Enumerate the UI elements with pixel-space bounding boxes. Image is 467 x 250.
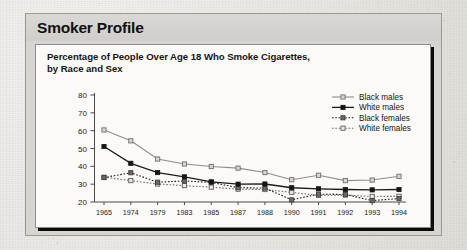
- data-point: [129, 179, 133, 183]
- data-point: [156, 180, 160, 184]
- data-point: [236, 166, 240, 170]
- legend-label: Black males: [359, 93, 403, 102]
- data-point: [156, 157, 160, 161]
- y-axis-tick-label: 30: [78, 180, 87, 189]
- data-point: [129, 171, 133, 175]
- x-axis-tick-label: 1988: [257, 208, 273, 217]
- x-axis-tick-label: 1985: [203, 208, 219, 217]
- x-axis-tick-label: 1983: [176, 208, 192, 217]
- legend-label: Black females: [359, 114, 410, 123]
- x-axis-tick-label: 1987: [230, 208, 246, 217]
- x-axis-tick-label: 1965: [96, 208, 112, 217]
- data-point: [397, 197, 401, 201]
- x-axis-tick-label: 1991: [311, 208, 327, 217]
- data-point: [129, 161, 133, 165]
- y-axis-tick-label: 50: [78, 145, 87, 154]
- legend-item-black-females: Black females: [332, 114, 410, 123]
- x-axis-tick-label: 1990: [284, 208, 300, 217]
- x-axis-tick-label: 1994: [391, 208, 407, 217]
- series-black-males: [102, 128, 401, 183]
- data-point: [370, 188, 374, 192]
- x-axis-tick-label: 1992: [337, 208, 353, 217]
- x-axis-tick-label: 1993: [364, 208, 380, 217]
- data-point: [102, 128, 106, 132]
- data-point: [397, 174, 401, 178]
- legend-item-black-males: Black males: [332, 93, 403, 102]
- data-point: [316, 187, 320, 191]
- data-point: [290, 190, 294, 194]
- legend-item-white-females: White females: [332, 124, 411, 133]
- data-point: [397, 187, 401, 191]
- data-point: [263, 182, 267, 186]
- legend-marker: [341, 95, 345, 99]
- data-point: [182, 175, 186, 179]
- series-black-females: [102, 171, 401, 203]
- data-point: [343, 187, 347, 191]
- legend-marker: [341, 126, 345, 130]
- smoker-profile-panel: Smoker Profile Percentage of People Over…: [25, 13, 442, 236]
- data-point: [236, 182, 240, 186]
- data-point: [370, 178, 374, 182]
- data-point: [209, 164, 213, 168]
- page-title: Smoker Profile: [37, 19, 144, 37]
- chart-panel: Percentage of People Over Age 18 Who Smo…: [35, 44, 431, 228]
- data-point: [209, 185, 213, 189]
- data-point: [316, 173, 320, 177]
- legend-label: White females: [359, 124, 411, 133]
- data-point: [290, 198, 294, 202]
- plot-area: 8070605040302019651974197919831985198719…: [36, 45, 432, 229]
- data-point: [182, 183, 186, 187]
- line-chart: 8070605040302019651974197919831985198719…: [36, 45, 432, 229]
- data-point: [129, 139, 133, 143]
- data-point: [263, 170, 267, 174]
- data-point: [316, 192, 320, 196]
- data-point: [290, 186, 294, 190]
- data-point: [182, 179, 186, 183]
- data-point: [290, 178, 294, 182]
- data-point: [263, 186, 267, 190]
- x-axis-tick-label: 1974: [123, 208, 139, 217]
- legend-marker: [341, 105, 345, 109]
- x-axis-tick-label: 1979: [150, 208, 166, 217]
- data-point: [209, 180, 213, 184]
- data-point: [370, 194, 374, 198]
- data-point: [102, 175, 106, 179]
- legend-item-white-males: White males: [332, 103, 404, 112]
- legend-marker: [341, 116, 345, 120]
- data-point: [156, 170, 160, 174]
- data-point: [343, 179, 347, 183]
- y-axis-tick-label: 40: [78, 162, 87, 171]
- data-point: [370, 198, 374, 202]
- y-axis-tick-label: 80: [78, 91, 87, 100]
- panel-header: Smoker Profile: [26, 14, 441, 41]
- y-axis-tick-label: 60: [78, 127, 87, 136]
- y-axis-tick-label: 70: [78, 109, 87, 118]
- y-axis-tick-label: 20: [78, 198, 87, 207]
- data-point: [343, 192, 347, 196]
- data-point: [102, 144, 106, 148]
- legend-label: White males: [359, 103, 404, 112]
- data-point: [182, 162, 186, 166]
